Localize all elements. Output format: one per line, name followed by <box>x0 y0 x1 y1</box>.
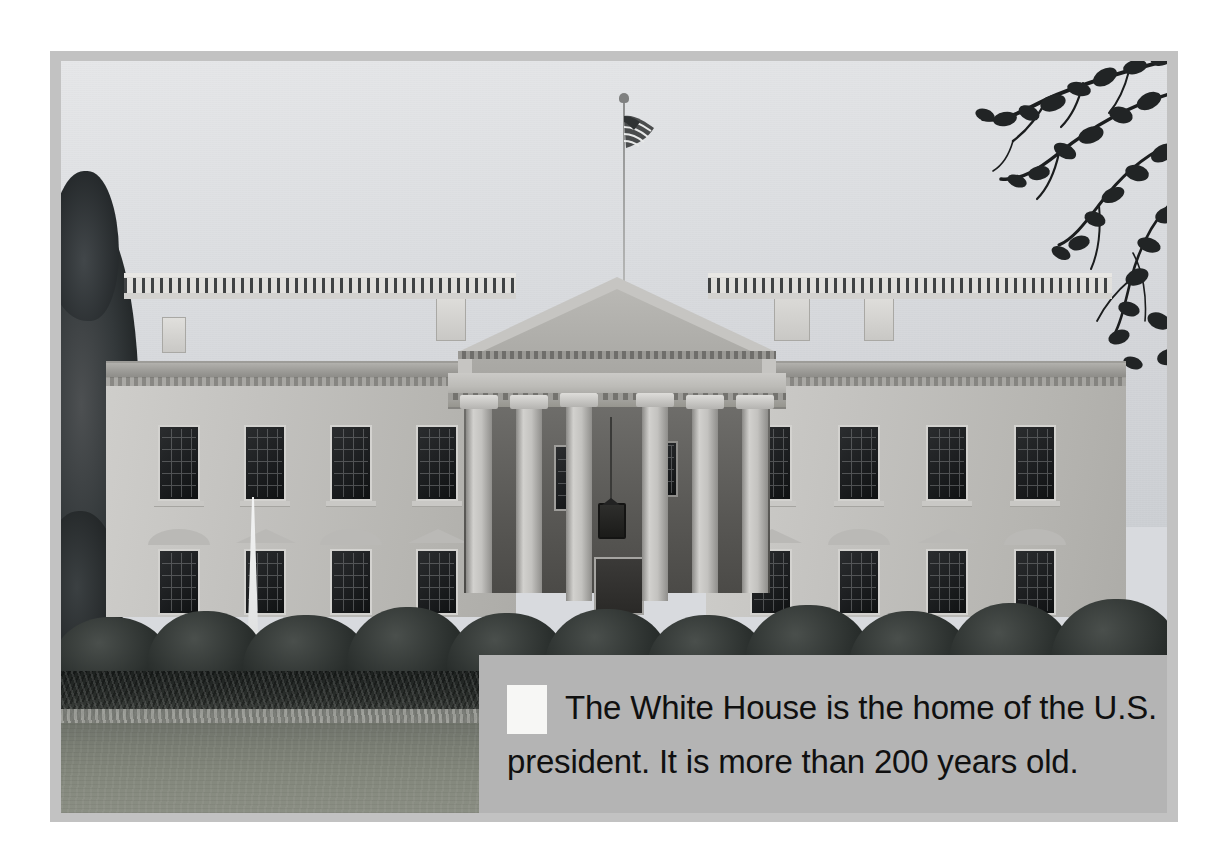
window <box>926 425 968 501</box>
american-flag-icon <box>624 114 660 154</box>
window <box>1014 425 1056 501</box>
window <box>838 425 880 501</box>
window <box>416 425 458 501</box>
pediment-dentils <box>458 351 776 359</box>
north-portico <box>458 277 776 615</box>
chimney <box>864 295 894 341</box>
caption-line-2: president. It is more than 200 years old… <box>507 735 1157 789</box>
window <box>330 425 372 501</box>
window <box>244 425 286 501</box>
portico-column <box>692 407 718 593</box>
photo-frame: The White House is the home of the U.S. … <box>50 51 1178 822</box>
portico-lantern <box>598 503 626 539</box>
portico-column <box>642 405 668 601</box>
portico-column <box>466 407 492 593</box>
portico-column <box>566 405 592 601</box>
portico-column <box>516 407 542 593</box>
white-square-marker <box>507 685 547 734</box>
portico-column <box>742 407 768 593</box>
chimney <box>162 317 186 353</box>
lantern-cord <box>610 417 612 505</box>
caption-line-1: The White House is the home of the U.S. <box>507 681 1157 735</box>
window <box>158 425 200 501</box>
white-house-photograph: The White House is the home of the U.S. … <box>61 61 1167 813</box>
flagpole-finial <box>619 93 629 103</box>
caption-panel: The White House is the home of the U.S. … <box>479 655 1167 813</box>
